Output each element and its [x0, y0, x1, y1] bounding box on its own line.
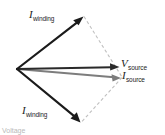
- label-i-winding-lower-subscript: winding: [26, 111, 47, 118]
- label-i-winding-upper: Iwinding: [29, 9, 54, 20]
- label-i-source-subscript: source: [126, 76, 145, 83]
- vector-v-source: [17, 63, 120, 70]
- vector-i-source-arrowhead: [112, 74, 122, 81]
- label-i-winding-lower: Iwinding: [22, 105, 47, 116]
- label-v-source-symbol: V: [121, 57, 128, 69]
- construction-line-lower: [81, 78, 122, 123]
- label-i-source: Isource: [122, 70, 145, 81]
- vector-i-winding-upper-shaft: [17, 22, 78, 69]
- label-v-source: Vsource: [121, 58, 147, 69]
- vector-i-source: [17, 69, 121, 81]
- phasor-diagram: Iwinding Vsource Isource Iwinding Voltag…: [0, 0, 165, 135]
- construction-lines-group: [81, 17, 122, 123]
- clipped-caption-fragment: Voltage: [0, 127, 165, 135]
- vector-v-source-shaft: [17, 67, 112, 69]
- vector-i-source-shaft: [17, 69, 114, 77]
- vector-i-winding-upper: [17, 17, 84, 70]
- vector-v-source-arrowhead: [110, 63, 120, 70]
- label-i-winding-upper-subscript: winding: [33, 15, 54, 22]
